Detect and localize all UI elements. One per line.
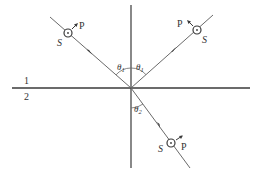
incident-ray: P S <box>50 17 131 88</box>
refracted-p-label: P <box>181 141 187 152</box>
medium-2-label: 2 <box>24 91 29 102</box>
incident-s-label: S <box>57 37 62 48</box>
theta1-reflected-label: θ1 <box>136 62 144 73</box>
reflected-p-label: P <box>177 18 183 29</box>
theta1-incident-label: θ1 <box>117 62 125 73</box>
incident-p-label: P <box>79 20 85 31</box>
refracted-s-label: S <box>158 143 163 154</box>
refracted-ray: P S <box>131 88 190 168</box>
direction-arrow-icon <box>171 47 176 52</box>
direction-arrow-icon <box>157 122 160 128</box>
reflected-s-label: S <box>202 34 207 45</box>
medium-1-label: 1 <box>24 75 29 86</box>
diagram-canvas: P S P S P S θ1 <box>0 0 264 181</box>
reflected-ray: P S <box>131 15 213 88</box>
fresnel-diagram: P S P S P S θ1 <box>0 0 264 181</box>
